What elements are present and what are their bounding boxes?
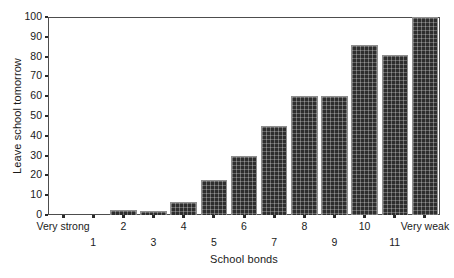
y-tick-mark	[45, 95, 48, 97]
x-tick-mark	[122, 215, 125, 218]
x-tick-mark	[212, 215, 215, 218]
y-tick-label: 30	[30, 149, 42, 161]
x-tick-label: Very weak	[365, 220, 454, 232]
y-axis-title: Leave school tomorrow	[11, 6, 23, 226]
x-axis-title: School bonds	[48, 253, 440, 265]
bar	[321, 96, 348, 215]
bar	[201, 180, 228, 215]
x-tick-mark	[92, 215, 95, 218]
y-tick-mark	[45, 75, 48, 77]
x-tick-mark	[423, 215, 426, 218]
y-tick-mark	[45, 155, 48, 157]
y-tick-mark	[45, 36, 48, 38]
y-tick-label: 20	[30, 168, 42, 180]
bar	[261, 126, 288, 215]
y-tick-label: 80	[30, 50, 42, 62]
bar	[170, 202, 197, 215]
y-tick-mark	[45, 194, 48, 196]
x-tick-mark	[303, 215, 306, 218]
x-tick-mark	[273, 215, 276, 218]
bar	[291, 96, 318, 215]
bar	[382, 55, 409, 215]
x-tick-mark	[243, 215, 246, 218]
y-tick-label: 60	[30, 89, 42, 101]
bar	[231, 156, 258, 215]
y-tick-label: 100	[24, 10, 42, 22]
bar	[351, 45, 378, 215]
x-tick-label: 11	[335, 236, 454, 248]
y-tick-label: 0	[36, 208, 42, 220]
x-tick-mark	[182, 215, 185, 218]
y-tick-mark	[45, 115, 48, 117]
y-tick-mark	[45, 214, 48, 216]
y-tick-mark	[45, 16, 48, 18]
y-tick-mark	[45, 174, 48, 176]
bar	[110, 210, 137, 215]
x-tick-mark	[333, 215, 336, 218]
bar	[140, 211, 167, 215]
y-tick-label: 50	[30, 109, 42, 121]
y-tick-label: 90	[30, 30, 42, 42]
y-tick-mark	[45, 135, 48, 137]
y-tick-label: 70	[30, 69, 42, 81]
y-tick-label: 40	[30, 129, 42, 141]
x-tick-mark	[62, 215, 65, 218]
y-tick-mark	[45, 56, 48, 58]
x-tick-mark	[393, 215, 396, 218]
bar	[412, 17, 439, 215]
x-tick-mark	[152, 215, 155, 218]
y-tick-label: 10	[30, 188, 42, 200]
x-tick-mark	[363, 215, 366, 218]
